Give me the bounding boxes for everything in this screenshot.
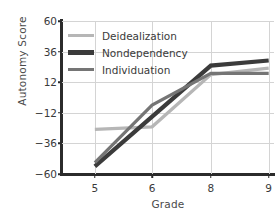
x-axis-title: Grade [62,198,274,210]
x-tick-label-5: 5 [92,182,99,194]
x-tick-mark-8 [210,174,212,178]
legend-item-deidealization: Deidealization [68,27,188,44]
series-line-individuation [95,73,269,162]
x-tick-label-6: 6 [149,182,156,194]
legend-label-nondependency: Nondependency [102,47,188,59]
y-tick-label-60: 60 [44,15,57,27]
legend-swatch-nondependency [68,50,94,54]
y-tick-label--12: −12 [35,107,57,119]
y-tick-label-12: 12 [44,76,57,88]
x-tick-mark-6 [151,174,153,178]
legend-swatch-individuation [68,68,94,71]
x-tick-label-9: 9 [265,182,272,194]
x-tick-mark-9 [268,174,270,178]
y-tick-label--36: −36 [35,137,57,149]
legend: DeidealizationNondependencyIndividuation [68,27,188,78]
legend-label-individuation: Individuation [102,64,170,76]
legend-item-individuation: Individuation [68,61,188,78]
y-tick-label-36: 36 [44,46,57,58]
x-tick-mark-5 [94,174,96,178]
autonomy-score-line-chart: Autonomy Score Grade 603612−12−36−60 568… [0,0,276,219]
legend-swatch-deidealization [68,34,94,37]
y-tick-label--60: −60 [35,168,57,180]
x-tick-label-8: 8 [207,182,214,194]
legend-label-deidealization: Deidealization [102,30,177,42]
legend-item-nondependency: Nondependency [68,44,188,61]
y-axis-title: Autonomy Score [16,1,28,121]
